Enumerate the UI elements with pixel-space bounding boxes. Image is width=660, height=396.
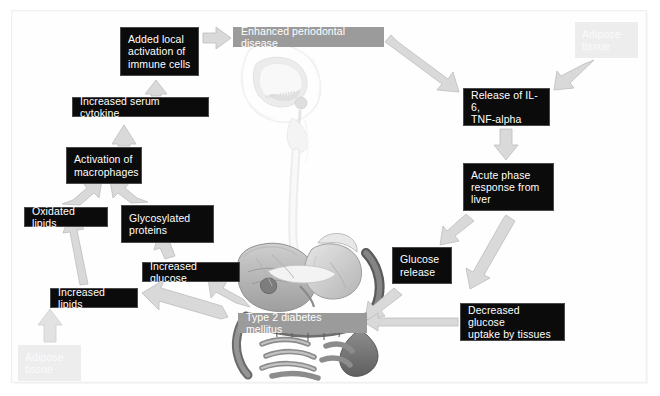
node-oxidated-lipids: Oxidated lipids [24,207,108,227]
node-adipose-tissue-top: Adipose tissue [575,22,638,58]
node-label: Increased serum cytokine [80,95,201,120]
node-label: Glucose release [400,253,439,278]
node-adipose-tissue-bottom: Adipose tissue [18,345,81,381]
node-type-2-diabetes-mellitus: Type 2 diabetes mellitus [238,313,367,333]
node-label: Oxidated lipids [32,205,100,230]
node-activation-of-macrophages: Activation of macrophages [66,147,142,184]
node-label: Increased lipids [58,286,130,311]
node-decreased-glucose-uptake: Decreased glucose uptake by tissues [460,303,565,341]
node-release-of-il6: Release of IL-6, TNF-alpha [463,88,550,126]
node-label: Type 2 diabetes mellitus [246,311,359,336]
node-label: Adipose tissue [582,28,621,53]
node-label: Release of IL-6, TNF-alpha [471,89,542,126]
node-label: Increased glucose [150,260,232,285]
node-label: Glycosylated proteins [129,212,190,237]
node-label: Enhanced periodontal disease [241,25,376,50]
node-label: Decreased glucose uptake by tissues [468,304,557,341]
node-label: Acute phase response from liver [471,169,539,206]
node-glycosylated-proteins: Glycosylated proteins [121,205,214,243]
node-label: Added local activation of immune cells [128,33,190,70]
node-acute-phase-response: Acute phase response from liver [463,163,554,211]
node-increased-serum-cytokine: Increased serum cytokine [72,97,209,117]
node-added-local-activation: Added local activation of immune cells [120,27,199,76]
node-enhanced-periodontal-disease: Enhanced periodontal disease [233,27,384,47]
node-increased-lipids: Increased lipids [50,288,138,308]
node-glucose-release: Glucose release [392,247,452,284]
node-increased-glucose: Increased glucose [142,262,240,282]
node-label: Activation of macrophages [74,153,139,178]
figure-canvas: Added local activation of immune cellsEn… [0,0,660,396]
node-label: Adipose tissue [25,351,64,376]
